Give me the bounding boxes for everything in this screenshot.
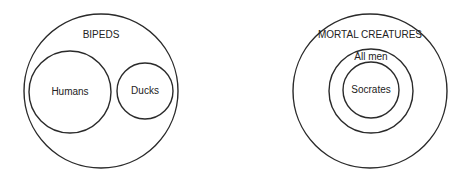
venn-diagrams: BIPEDS Humans Ducks MORTAL CREATURES All…	[0, 0, 471, 180]
mortal-creatures-diagram: MORTAL CREATURES All men Socrates	[293, 14, 447, 168]
socrates-label: Socrates	[351, 84, 390, 95]
ducks-label: Ducks	[131, 85, 159, 96]
bipeds-diagram: BIPEDS Humans Ducks	[24, 14, 178, 168]
mortal-creatures-label: MORTAL CREATURES	[318, 29, 422, 40]
bipeds-label: BIPEDS	[83, 29, 120, 40]
humans-label: Humans	[51, 86, 88, 97]
all-men-label: All men	[354, 51, 387, 62]
